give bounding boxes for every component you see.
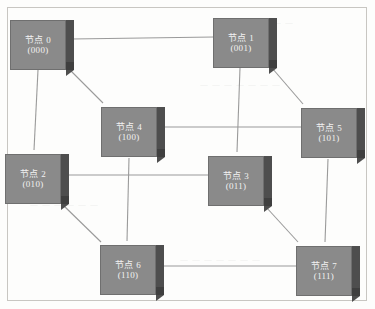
node-label: 节点 1 xyxy=(228,33,254,43)
node-011[interactable]: 节点 3 (011) xyxy=(208,150,272,206)
node-address: (000) xyxy=(28,45,49,55)
node-front-face: 节点 5 (101) xyxy=(301,108,357,158)
node-010[interactable]: 节点 2 (010) xyxy=(5,148,69,204)
edge-n0-n1 xyxy=(72,37,214,39)
edge-n0-n2 xyxy=(34,70,38,150)
node-address: (110) xyxy=(118,270,139,280)
node-front-face: 节点 7 (111) xyxy=(296,246,352,296)
node-label: 节点 7 xyxy=(311,261,337,271)
edge-n1-n5 xyxy=(272,68,303,104)
node-label: 节点 3 xyxy=(223,171,249,181)
node-front-face: 节点 6 (110) xyxy=(100,245,156,295)
node-address: (001) xyxy=(231,43,252,53)
node-000[interactable]: 节点 0 (000) xyxy=(10,14,74,70)
edge-n3-n7 xyxy=(266,207,298,242)
node-111[interactable]: 节点 7 (111) xyxy=(296,240,360,296)
edge-n1-n3 xyxy=(237,68,240,152)
node-label: 节点 4 xyxy=(116,122,142,132)
node-address: (111) xyxy=(314,271,334,281)
node-front-face: 节点 1 (001) xyxy=(213,18,269,68)
node-address: (010) xyxy=(23,179,44,189)
edge-n2-n6 xyxy=(63,205,101,242)
node-address: (101) xyxy=(319,133,340,143)
edge-n5-n7 xyxy=(325,159,328,242)
edge-n0-n4 xyxy=(70,70,103,103)
node-front-face: 节点 2 (010) xyxy=(5,154,61,204)
node-front-face: 节点 3 (011) xyxy=(208,156,264,206)
node-label: 节点 6 xyxy=(115,260,141,270)
node-front-face: 节点 0 (000) xyxy=(10,20,66,70)
node-101[interactable]: 节点 5 (101) xyxy=(301,102,365,158)
node-110[interactable]: 节点 6 (110) xyxy=(100,239,164,295)
node-front-face: 节点 4 (100) xyxy=(101,107,157,157)
node-label: 节点 2 xyxy=(20,169,46,179)
node-001[interactable]: 节点 1 (001) xyxy=(213,12,277,68)
node-label: 节点 0 xyxy=(25,35,51,45)
node-100[interactable]: 节点 4 (100) xyxy=(101,101,165,157)
node-label: 节点 5 xyxy=(316,123,342,133)
edge-n4-n6 xyxy=(127,158,129,241)
node-address: (100) xyxy=(119,132,140,142)
hypercube-diagram: — — — — — — — — — — — — — — — — — — — — … xyxy=(0,0,375,309)
node-address: (011) xyxy=(226,181,247,191)
